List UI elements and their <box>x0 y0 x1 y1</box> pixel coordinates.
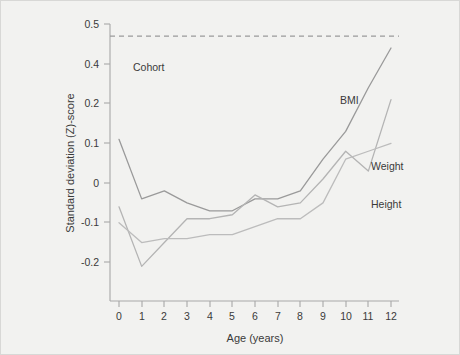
series-label-height: Height <box>371 198 401 210</box>
x-tick-label-9: 9 <box>320 310 326 322</box>
series-label-bmi: BMI <box>340 94 359 106</box>
x-tick-label-2: 2 <box>161 310 167 322</box>
y-tick-label-4: 0 <box>93 177 99 189</box>
x-tick-label-3: 3 <box>184 310 190 322</box>
cohort-label: Cohort <box>133 61 165 73</box>
x-tick-label-1: 1 <box>139 310 145 322</box>
y-tick-label-2: 0.2 <box>84 97 99 109</box>
y-tick-label-0: 0.5 <box>84 18 99 30</box>
x-tick-label-12: 12 <box>385 310 397 322</box>
x-tick-label-4: 4 <box>207 310 213 322</box>
x-tick-label-7: 7 <box>275 310 281 322</box>
x-tick-label-11: 11 <box>363 310 374 322</box>
x-tick-label-10: 10 <box>340 310 352 322</box>
series-label-weight: Weight <box>371 160 404 172</box>
y-tick-label-3: 0.1 <box>84 137 99 149</box>
y-tick-label-6: -0.2 <box>81 256 99 268</box>
x-tick-label-0: 0 <box>116 310 122 322</box>
x-tick-label-8: 8 <box>297 310 303 322</box>
chart-figure: 0.5 0.4 0.2 0.1 0 -0.1 -0.2 0 1 2 3 4 5 <box>0 0 460 355</box>
y-tick-label-5: -0.1 <box>81 216 99 228</box>
y-tick-label-1: 0.4 <box>84 58 99 70</box>
x-tick-label-5: 5 <box>229 310 235 322</box>
y-axis-title: Standard deviation (Z)-score <box>64 93 76 232</box>
line-chart: 0.5 0.4 0.2 0.1 0 -0.1 -0.2 0 1 2 3 4 5 <box>1 1 460 355</box>
x-axis-title: Age (years) <box>227 332 284 344</box>
x-tick-label-6: 6 <box>252 310 258 322</box>
